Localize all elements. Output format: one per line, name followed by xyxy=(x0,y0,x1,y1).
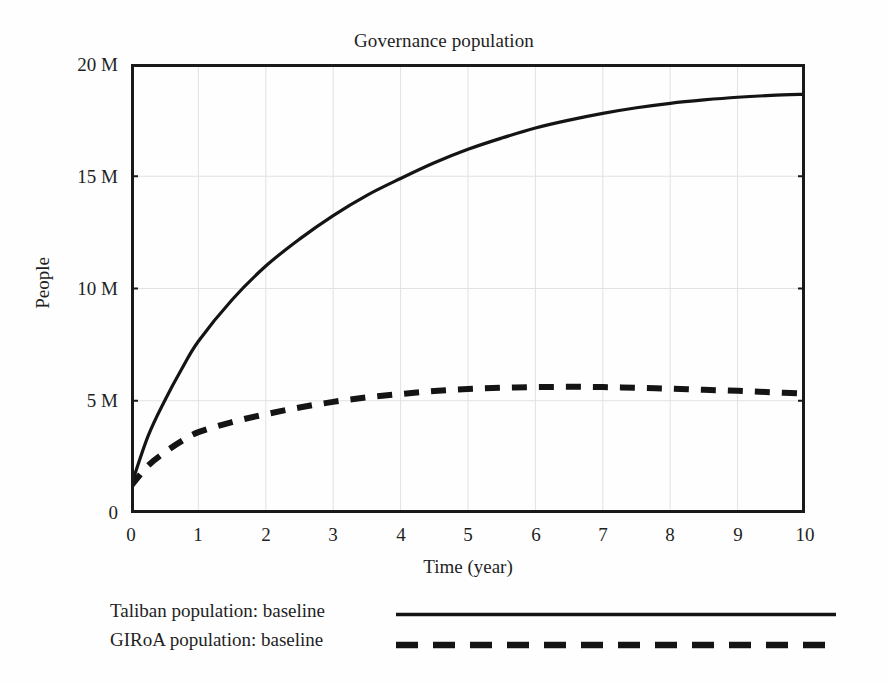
legend-label-giroa: GIRoA population: baseline xyxy=(110,629,382,651)
legend-item-giroa: GIRoA population: baseline xyxy=(110,629,840,658)
xtick-label-9: 9 xyxy=(708,524,768,546)
chart-legend: Taliban population: baseline GIRoA popul… xyxy=(110,600,840,658)
ytick-label-0: 0 xyxy=(8,502,118,524)
legend-swatch-solid xyxy=(396,612,836,617)
chart-title: Governance population xyxy=(0,30,888,52)
xtick-label-4: 4 xyxy=(371,524,431,546)
x-axis-title: Time (year) xyxy=(131,556,805,578)
ytick-label-10m: 10 M xyxy=(8,278,118,300)
legend-swatch-dashed xyxy=(396,641,836,646)
legend-item-taliban: Taliban population: baseline xyxy=(110,600,840,629)
xtick-label-7: 7 xyxy=(573,524,633,546)
xtick-label-5: 5 xyxy=(438,524,498,546)
xtick-label-2: 2 xyxy=(236,524,296,546)
y-axis-title: People xyxy=(32,228,54,338)
chart-figure: Governance population 20 M 15 M 10 M 5 M… xyxy=(0,0,888,683)
ytick-label-20m: 20 M xyxy=(8,54,118,76)
xtick-label-10: 10 xyxy=(775,524,835,546)
xtick-label-8: 8 xyxy=(640,524,700,546)
ytick-label-5m: 5 M xyxy=(8,390,118,412)
plot-frame xyxy=(131,64,805,513)
ytick-label-15m: 15 M xyxy=(8,166,118,188)
xtick-label-0: 0 xyxy=(101,524,161,546)
xtick-label-6: 6 xyxy=(506,524,566,546)
xtick-label-1: 1 xyxy=(168,524,228,546)
legend-label-taliban: Taliban population: baseline xyxy=(110,600,382,622)
xtick-label-3: 3 xyxy=(303,524,363,546)
